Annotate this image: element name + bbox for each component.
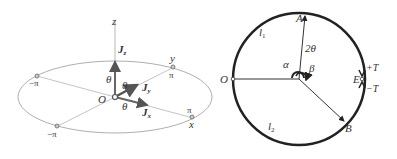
two-theta-label: 2θ	[305, 42, 317, 54]
beta-label: β	[308, 62, 315, 74]
minus-t-label: −T	[366, 83, 380, 94]
theta-label-1: θ	[106, 73, 112, 85]
jy-label: Jy	[141, 81, 152, 95]
x-pi-label: π	[187, 105, 192, 115]
point-o-label: O	[220, 73, 228, 85]
arc-l2-label: l2	[268, 120, 275, 134]
theta-label-3: θ	[122, 100, 128, 112]
point-b-label: B	[345, 122, 352, 134]
origin-point	[113, 95, 118, 100]
vector-jx	[115, 97, 147, 105]
y-pi-label: π	[169, 70, 174, 80]
left-figure: z y x O Jz Jy Jx θ θ θ π π −π −π	[18, 15, 212, 139]
jz-label: Jz	[117, 43, 127, 57]
z-axis-label: z	[111, 15, 117, 27]
point-e	[360, 77, 364, 81]
alpha-label: α	[283, 58, 289, 70]
jx-label: Jx	[141, 106, 152, 120]
right-figure: A O E B l1 l2 2θ α β +T −T	[220, 12, 380, 145]
point-neg-pi-bottom	[55, 124, 59, 128]
point-y-pi	[171, 65, 175, 69]
arc-l1-label: l1	[259, 26, 266, 40]
radius-to-b	[299, 79, 344, 121]
x-axis-label: x	[188, 118, 194, 130]
theta-label-2: θ	[122, 79, 128, 91]
point-e-label: E	[352, 73, 360, 85]
point-o	[231, 77, 235, 81]
point-a-label: A	[295, 12, 303, 24]
origin-label: O	[98, 93, 106, 105]
neg-pi-bottom-label: −π	[47, 129, 57, 139]
y-axis-label: y	[169, 52, 175, 64]
diagram-canvas: z y x O Jz Jy Jx θ θ θ π π −π −π A O E B…	[0, 0, 397, 159]
neg-pi-left-label: −π	[29, 78, 39, 88]
plus-t-label: +T	[366, 62, 380, 73]
